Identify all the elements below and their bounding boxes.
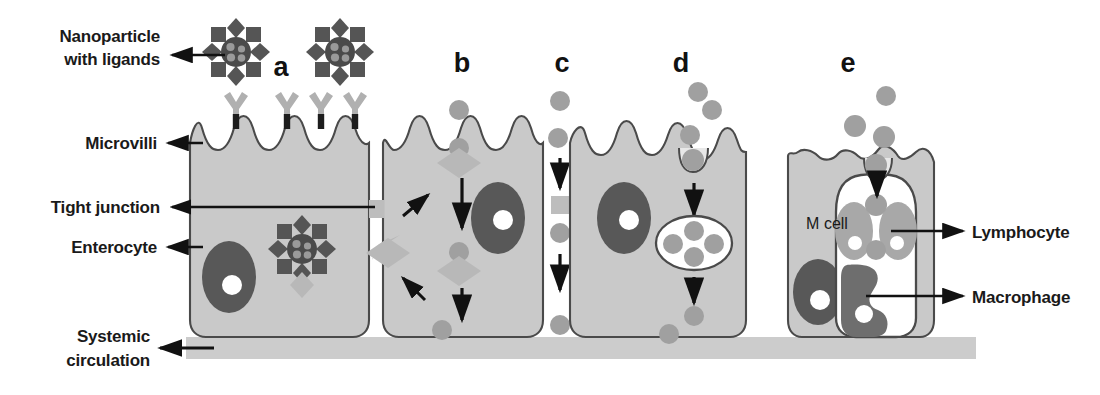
panel-letter-b: b bbox=[454, 48, 471, 78]
macrophage-nucleus bbox=[855, 305, 873, 323]
m-cell-group bbox=[788, 146, 934, 337]
label-lymphocyte: Lymphocyte bbox=[972, 223, 1070, 242]
tight-junction-ab bbox=[369, 200, 384, 218]
lymphocyte-left-nucleus bbox=[848, 236, 862, 250]
label-systemic-line2: circulation bbox=[66, 351, 150, 370]
particle-d-lumen-3 bbox=[680, 125, 700, 145]
label-macrophage: Macrophage bbox=[972, 288, 1070, 307]
particle-e-in-pit bbox=[865, 154, 887, 176]
vesicle-particle-1 bbox=[684, 221, 704, 241]
particle-d-basolateral bbox=[659, 324, 679, 344]
label-nanoparticle-line2: with ligands bbox=[63, 50, 160, 69]
label-systemic-line1: Systemic bbox=[77, 327, 150, 346]
particle-c-basolateral bbox=[550, 315, 570, 335]
nucleolus-b bbox=[493, 210, 513, 230]
label-nanoparticle-line1: Nanoparticle bbox=[59, 27, 160, 46]
particle-e-lumen-2 bbox=[844, 115, 866, 137]
vesicle-particle-4 bbox=[684, 247, 704, 267]
vesicle-particle-3 bbox=[704, 234, 724, 254]
particle-c-through bbox=[550, 223, 570, 243]
particle-d-released bbox=[684, 306, 704, 326]
particle-b-apical bbox=[449, 100, 469, 120]
panel-letter-c: c bbox=[554, 48, 569, 78]
vesicle-particle-2 bbox=[663, 234, 683, 254]
label-enterocyte: Enterocyte bbox=[71, 238, 157, 257]
label-microvilli: Microvilli bbox=[85, 134, 157, 153]
epithelium-transport-diagram: Nanoparticle with ligands Microvilli Tig… bbox=[0, 0, 1100, 395]
nanoparticle-bound-left bbox=[202, 18, 270, 86]
panel-letter-a: a bbox=[273, 52, 289, 82]
label-m-cell: M cell bbox=[806, 215, 848, 232]
particle-e-lumen-1 bbox=[876, 86, 896, 106]
systemic-circulation-band bbox=[186, 337, 976, 359]
particle-c-lumen bbox=[550, 91, 570, 111]
tight-junction-bc bbox=[551, 196, 570, 214]
particle-d-lumen-1 bbox=[688, 82, 708, 102]
panel-letter-e: e bbox=[840, 48, 855, 78]
lymphocyte-right-nucleus bbox=[890, 236, 904, 250]
panel-letter-d: d bbox=[673, 48, 690, 78]
particle-d-lumen-2 bbox=[702, 100, 722, 120]
label-tight-junction: Tight junction bbox=[51, 198, 160, 217]
particle-c-entering bbox=[548, 128, 568, 148]
particle-d-in-pit bbox=[682, 149, 704, 171]
nanoparticle-bound-right bbox=[306, 18, 374, 86]
nucleolus-a bbox=[222, 275, 242, 295]
pocket-particle-2 bbox=[866, 240, 886, 260]
nucleolus-mcell bbox=[810, 290, 830, 310]
nucleolus-d bbox=[619, 210, 639, 230]
particle-e-lumen-3 bbox=[873, 126, 895, 148]
figure-canvas: Nanoparticle with ligands Microvilli Tig… bbox=[0, 0, 1100, 395]
particle-b-basolateral bbox=[432, 320, 452, 340]
pocket-particle-1 bbox=[865, 194, 887, 216]
